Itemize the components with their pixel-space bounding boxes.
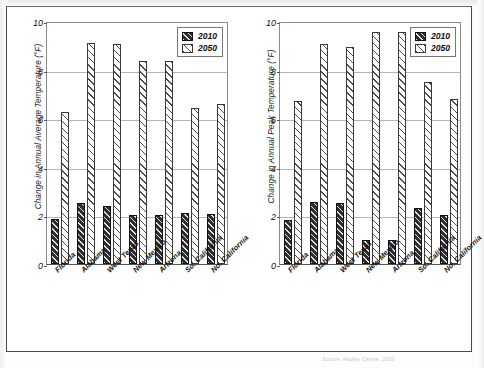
- gridline: [280, 217, 460, 218]
- legend-swatch-icon: [415, 44, 426, 53]
- y-axis-tick-label: 6: [271, 115, 276, 125]
- chart-panel-annual-peak-temperature: Change in Annual Peak Temperature (°F) 0…: [243, 14, 475, 344]
- bar-2050: [165, 61, 173, 264]
- bar-2050: [320, 44, 328, 264]
- gridline: [47, 169, 227, 170]
- bar-2010: [284, 220, 292, 264]
- y-axis-tick-label: 2: [38, 212, 43, 222]
- source-note: Source: Hadley Centre, 2003: [322, 356, 394, 362]
- bar-2050: [294, 101, 302, 264]
- legend-swatch-icon: [182, 32, 193, 41]
- y-axis-tick-mark: [277, 72, 280, 73]
- bar-2050: [372, 32, 380, 264]
- y-axis-tick-mark: [44, 217, 47, 218]
- y-axis-tick-mark: [44, 23, 47, 24]
- bar-2010: [414, 208, 422, 264]
- bar-2010: [310, 202, 318, 264]
- gridline: [280, 120, 460, 121]
- y-axis-tick-mark: [44, 72, 47, 73]
- legend-right: 20102050: [410, 27, 456, 57]
- legend-item: 2010: [415, 31, 450, 41]
- bar-2010: [51, 219, 59, 264]
- legend-item: 2010: [182, 31, 217, 41]
- y-axis-tick-label: 8: [271, 67, 276, 77]
- legend-left: 20102050: [177, 27, 223, 57]
- legend-label: 2010: [198, 31, 217, 41]
- gridline: [280, 169, 460, 170]
- plot-area-left: 0246810 20102050: [46, 22, 228, 265]
- y-axis-tick-label: 4: [38, 164, 43, 174]
- gridline: [47, 120, 227, 121]
- legend-item: 2050: [415, 43, 450, 53]
- legend-label: 2010: [431, 31, 450, 41]
- scan-artifact-right-edge: [478, 0, 484, 368]
- bar-2010: [77, 203, 85, 264]
- y-axis-tick-mark: [277, 120, 280, 121]
- y-axis-tick-label: 6: [38, 115, 43, 125]
- legend-label: 2050: [431, 43, 450, 53]
- legend-item: 2050: [182, 43, 217, 53]
- y-axis-tick-mark: [44, 266, 47, 267]
- y-axis-tick-mark: [277, 23, 280, 24]
- y-axis-tick-mark: [44, 169, 47, 170]
- y-axis-tick-label: 2: [271, 212, 276, 222]
- y-axis-tick-mark: [44, 120, 47, 121]
- y-axis-tick-label: 10: [33, 18, 43, 28]
- bar-2050: [87, 43, 95, 264]
- y-axis-tick-label: 8: [38, 67, 43, 77]
- bar-2050: [61, 112, 69, 264]
- chart-panel-annual-average-temperature: Change in Annual Average Temperature (°F…: [10, 14, 242, 344]
- x-axis-labels-right: FloridaAlabamaWest TexasNew MexicoArizon…: [279, 268, 461, 348]
- legend-swatch-icon: [182, 44, 193, 53]
- legend-label: 2050: [198, 43, 217, 53]
- y-axis-tick-label: 10: [266, 18, 276, 28]
- bar-2010: [181, 213, 189, 264]
- bar-2050: [113, 44, 121, 264]
- bar-2050: [346, 47, 354, 264]
- bar-2050: [398, 32, 406, 264]
- y-axis-tick-label: 0: [271, 261, 276, 271]
- legend-swatch-icon: [415, 32, 426, 41]
- y-axis-tick-mark: [277, 169, 280, 170]
- y-axis-tick-mark: [277, 266, 280, 267]
- bar-2050: [191, 108, 199, 264]
- y-axis-tick-label: 4: [271, 164, 276, 174]
- y-axis-tick-mark: [277, 217, 280, 218]
- gridline: [280, 72, 460, 73]
- plot-area-right: 0246810 20102050: [279, 22, 461, 265]
- bar-2050: [424, 82, 432, 264]
- y-axis-title-right: Change in Annual Peak Temperature (°F): [267, 27, 276, 227]
- y-axis-title-left: Change in Annual Average Temperature (°F…: [34, 27, 43, 227]
- x-axis-labels-left: FloridaAlabamaWest TexasNew MexicoArizon…: [46, 268, 228, 348]
- bar-2050: [139, 61, 147, 264]
- y-axis-tick-label: 0: [38, 261, 43, 271]
- gridline: [47, 72, 227, 73]
